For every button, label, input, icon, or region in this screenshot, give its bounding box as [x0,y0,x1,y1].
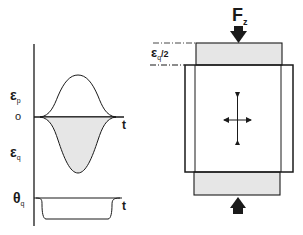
epsilon-p-subscript: p [17,97,21,104]
deformed-specimen [185,65,293,172]
top-platen [196,43,282,65]
theta-q-curve [36,198,120,219]
epsilon-q-label: εq [10,145,21,159]
strain-fraction: /2 [161,49,169,59]
epsilon-p-label: εp [10,88,21,102]
time-label-lower: t [122,200,126,212]
force-label: Fz [232,6,248,24]
diagram-canvas [0,0,303,235]
deformation-cross-icon [223,92,252,145]
epsilon-p-curve [40,75,116,117]
epsilon-p-symbol: ε [10,87,17,103]
time-label-upper: t [122,119,126,131]
theta-q-symbol: θ [13,190,21,206]
force-subscript: z [243,17,248,27]
force-arrow-down-icon [230,26,247,43]
epsilon-q-symbol: ε [10,144,17,160]
force-symbol: F [232,5,243,25]
bottom-platen [194,172,280,195]
strain-label: εq/2 [151,46,169,59]
force-arrow-up-icon [230,197,246,214]
epsilon-q-curve [40,117,116,173]
theta-q-subscript: q [21,200,25,207]
theta-q-label: θq [13,191,24,205]
strain-subscript: q [157,54,161,61]
epsilon-q-subscript: q [17,154,21,161]
zero-label: o [15,111,21,122]
